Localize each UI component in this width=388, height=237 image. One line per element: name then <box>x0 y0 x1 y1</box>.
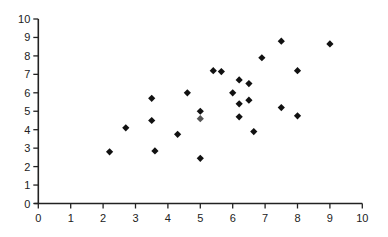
y-tick-label: 7 <box>24 68 30 80</box>
y-axis: 012345678910 <box>18 13 38 210</box>
data-point <box>122 124 129 131</box>
data-point <box>218 68 225 75</box>
y-tick-label: 5 <box>24 105 30 117</box>
y-tick-label: 8 <box>24 50 30 62</box>
data-point <box>229 89 236 96</box>
data-point <box>148 95 155 102</box>
x-tick-label: 3 <box>132 212 138 224</box>
y-tick-label: 3 <box>24 142 30 154</box>
data-point <box>106 148 113 155</box>
data-point <box>210 67 217 74</box>
y-tick-label: 6 <box>24 87 30 99</box>
data-point <box>174 131 181 138</box>
data-point <box>278 104 285 111</box>
data-point <box>236 113 243 120</box>
x-tick-label: 4 <box>165 212 171 224</box>
data-point <box>245 80 252 87</box>
y-tick-label: 10 <box>18 13 30 25</box>
data-point <box>197 115 204 122</box>
x-tick-label: 0 <box>35 212 41 224</box>
x-tick-label: 2 <box>100 212 106 224</box>
data-point <box>184 89 191 96</box>
data-point <box>236 100 243 107</box>
data-point <box>258 54 265 61</box>
y-tick-label: 2 <box>24 161 30 173</box>
x-axis: 012345678910 <box>34 204 368 224</box>
data-point <box>294 112 301 119</box>
data-point <box>148 117 155 124</box>
data-point <box>294 67 301 74</box>
data-points <box>106 38 334 162</box>
data-point <box>197 108 204 115</box>
data-point <box>197 155 204 162</box>
y-tick-label: 0 <box>24 198 30 210</box>
y-tick-label: 4 <box>24 124 30 136</box>
y-tick-label: 1 <box>24 179 30 191</box>
data-point <box>245 97 252 104</box>
scatter-chart: 012345678910 012345678910 <box>0 0 388 237</box>
x-tick-label: 8 <box>294 212 300 224</box>
x-tick-label: 5 <box>197 212 203 224</box>
y-tick-label: 9 <box>24 31 30 43</box>
data-point <box>151 147 158 154</box>
x-tick-label: 10 <box>356 212 368 224</box>
data-point <box>250 128 257 135</box>
data-point <box>236 76 243 83</box>
x-tick-label: 7 <box>262 212 268 224</box>
x-tick-label: 9 <box>327 212 333 224</box>
data-point <box>278 38 285 45</box>
data-point <box>326 40 333 47</box>
x-tick-label: 1 <box>68 212 74 224</box>
x-tick-label: 6 <box>230 212 236 224</box>
